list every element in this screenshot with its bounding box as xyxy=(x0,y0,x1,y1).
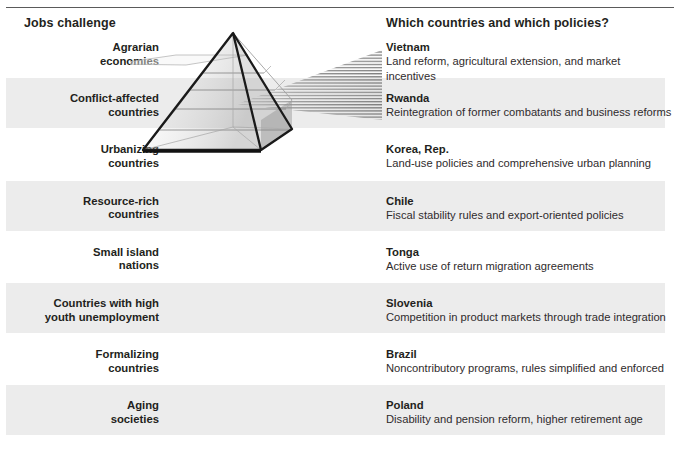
country-policy-entry: Korea, Rep.Land-use policies and compreh… xyxy=(386,142,672,171)
country-name: Tonga xyxy=(386,245,672,259)
country-name: Chile xyxy=(386,194,672,208)
policy-description: Reintegration of former combatants and b… xyxy=(386,105,672,120)
policy-description: Land reform, agricultural extension, and… xyxy=(386,54,672,83)
column-header-jobs-challenge: Jobs challenge xyxy=(24,16,116,30)
jobs-challenge-label-line2: nations xyxy=(0,259,159,273)
jobs-challenge-label-line1: Formalizing xyxy=(0,348,159,362)
country-policy-entry: VietnamLand reform, agricultural extensi… xyxy=(386,40,672,83)
policy-description: Competition in product markets through t… xyxy=(386,310,672,325)
jobs-challenge-label: Formalizingcountries xyxy=(0,348,159,375)
country-name: Slovenia xyxy=(386,296,672,310)
jobs-challenge-label-line2: youth unemployment xyxy=(0,311,159,325)
jobs-challenge-figure: Jobs challenge Which countries and which… xyxy=(0,0,680,450)
jobs-challenge-label-line1: Aging xyxy=(0,399,159,413)
clipped-header-text xyxy=(230,0,450,6)
jobs-challenge-label-line1: Countries with high xyxy=(0,297,159,311)
country-name: Vietnam xyxy=(386,40,672,54)
policy-description: Disability and pension reform, higher re… xyxy=(386,412,672,427)
jobs-challenge-label-line2: societies xyxy=(0,413,159,427)
country-name: Korea, Rep. xyxy=(386,142,672,156)
country-name: Poland xyxy=(386,398,672,412)
jobs-challenge-label-line2: countries xyxy=(0,362,159,376)
glass-pyramid-icon xyxy=(130,8,390,183)
country-name: Rwanda xyxy=(386,91,672,105)
country-policy-entry: BrazilNoncontributory programs, rules si… xyxy=(386,347,672,376)
jobs-challenge-label-line2: countries xyxy=(0,208,159,222)
country-policy-entry: RwandaReintegration of former combatants… xyxy=(386,91,672,120)
jobs-challenge-label: Small islandnations xyxy=(0,246,159,273)
country-policy-entry: PolandDisability and pension reform, hig… xyxy=(386,398,672,427)
policy-description: Noncontributory programs, rules simplifi… xyxy=(386,361,672,376)
jobs-challenge-label: Resource-richcountries xyxy=(0,195,159,222)
country-policy-entry: ChileFiscal stability rules and export-o… xyxy=(386,194,672,223)
jobs-challenge-label: Agingsocieties xyxy=(0,399,159,426)
policy-description: Land-use policies and comprehensive urba… xyxy=(386,156,672,171)
jobs-challenge-label-line1: Resource-rich xyxy=(0,195,159,209)
country-policy-entry: SloveniaCompetition in product markets t… xyxy=(386,296,672,325)
column-header-countries-policies: Which countries and which policies? xyxy=(386,16,609,30)
policy-description: Fiscal stability rules and export-orient… xyxy=(386,208,672,223)
country-policy-entry: TongaActive use of return migration agre… xyxy=(386,245,672,274)
country-name: Brazil xyxy=(386,347,672,361)
policy-description: Active use of return migration agreement… xyxy=(386,259,672,274)
jobs-challenge-label-line1: Small island xyxy=(0,246,159,260)
jobs-challenge-label: Countries with highyouth unemployment xyxy=(0,297,159,324)
